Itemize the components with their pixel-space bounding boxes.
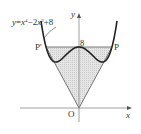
y-intercept-label: 8 (80, 38, 84, 48)
y-axis-label: y (70, 9, 75, 19)
point-p-prime-label: P' (35, 42, 42, 52)
graph-figure: y=x4−2x2+8 y x O 8 P' P (0, 0, 141, 134)
y-axis-arrow-icon (77, 13, 81, 18)
curve-equation-label: y=x4−2x2+8 (11, 17, 54, 27)
x-axis-label: x (125, 110, 130, 120)
point-p-label: P (114, 42, 119, 52)
origin-label: O (68, 109, 75, 119)
label-leader-line (44, 27, 56, 38)
